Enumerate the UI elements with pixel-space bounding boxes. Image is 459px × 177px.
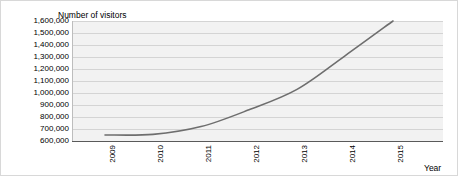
x-axis-tick-label: 2011 [205, 145, 213, 162]
gridline [72, 21, 443, 22]
y-axis-tick-label: 900,000 [3, 101, 69, 109]
chart-figure: 1,600,0001,500,0001,400,0001,300,0001,20… [0, 0, 459, 177]
plot-area [72, 21, 443, 141]
y-axis-tick-label: 1,500,000 [3, 29, 69, 37]
y-axis-tick-label: 700,000 [3, 125, 69, 133]
gridline [72, 57, 443, 58]
gridline [72, 129, 443, 130]
x-axis-tick-label: 2013 [301, 145, 309, 163]
x-axis-tick-label: 2009 [109, 145, 117, 163]
gridline [72, 81, 443, 82]
y-axis-tick-label: 1,400,000 [3, 41, 69, 49]
gridline [72, 117, 443, 118]
y-axis-title: Number of visitors [58, 10, 127, 20]
gridlines [72, 21, 443, 141]
y-axis-tick-label: 800,000 [3, 113, 69, 121]
gridline [72, 45, 443, 46]
x-axis-tick-label: 2014 [349, 145, 357, 163]
y-axis-tick-label: 1,000,000 [3, 89, 69, 97]
y-axis-tick-label: 600,000 [3, 137, 69, 145]
y-axis-tick-label: 1,300,000 [3, 53, 69, 61]
y-axis-line [72, 21, 73, 141]
y-axis-tick-label: 1,200,000 [3, 65, 69, 73]
y-axis-tick-labels: 1,600,0001,500,0001,400,0001,300,0001,20… [0, 0, 69, 177]
gridline [72, 33, 443, 34]
x-axis-tick-label: 2010 [157, 145, 165, 163]
gridline [72, 105, 443, 106]
x-axis-tick-label: 2015 [397, 145, 405, 163]
y-axis-tick-label: 1,100,000 [3, 77, 69, 85]
x-axis-line [72, 141, 443, 142]
x-axis-title: Year [424, 163, 441, 173]
gridline [72, 93, 443, 94]
x-axis-tick-label: 2012 [253, 145, 261, 163]
gridline [72, 69, 443, 70]
